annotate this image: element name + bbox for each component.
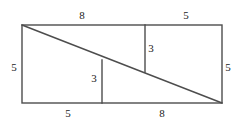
label-top-right-length: 5 [183,10,189,21]
diagonal-line [22,25,222,103]
label-right-side-height: 5 [225,62,231,73]
label-left-side-height: 5 [11,62,17,73]
geometry-figure: 8 5 5 5 5 8 3 3 [0,0,240,128]
figure-canvas [0,0,240,128]
label-left-interior-height: 3 [91,73,97,84]
label-bottom-right-length: 8 [159,108,165,119]
label-right-interior-height: 3 [148,43,154,54]
label-bottom-left-length: 5 [65,108,71,119]
label-top-left-length: 8 [79,10,85,21]
